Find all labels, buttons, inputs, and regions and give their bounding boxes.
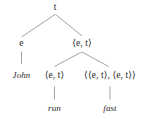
tree-branch-lines — [0, 0, 150, 119]
node-subject-word-john: John — [13, 71, 31, 80]
node-subject-type: e — [19, 39, 23, 49]
node-verb-type: ⟨e, t⟩ — [45, 71, 65, 81]
node-modifier-type: ⟨⟨e, t⟩, ⟨e, t⟩⟩ — [84, 71, 136, 81]
node-verb-word-run: run — [48, 104, 61, 113]
node-predicate-type: ⟨e, t⟩ — [72, 39, 92, 49]
branch-root-to-predicate — [56, 15, 83, 37]
semantic-type-tree: t e ⟨e, t⟩ John ⟨e, t⟩ ⟨⟨e, t⟩, ⟨e, t⟩⟩ … — [0, 0, 150, 119]
node-modifier-word-fast: fast — [103, 104, 116, 113]
branch-predicate-to-verb — [55, 52, 82, 67]
branch-predicate-to-modifier — [82, 52, 109, 67]
node-root-type: t — [54, 3, 57, 13]
branch-root-to-subject — [22, 15, 56, 38]
